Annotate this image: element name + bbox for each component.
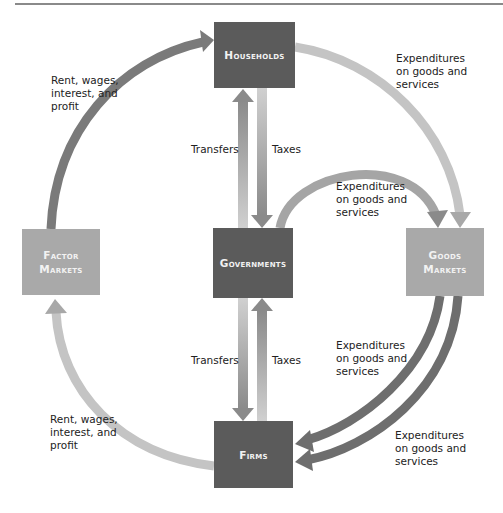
label-goods-to-firms-outer: Expenditures on goods and services: [395, 429, 466, 468]
node-goods-markets: Goods Markets: [406, 228, 484, 296]
node-governments: Governments: [213, 228, 293, 298]
label-upper-taxes: Taxes: [272, 143, 301, 156]
arrow-upper-taxes: [251, 88, 273, 228]
node-goods-markets-label: Goods Markets: [423, 248, 466, 276]
node-firms-label: Firms: [239, 448, 268, 462]
label-goods-to-firms-inner: Expenditures on goods and services: [336, 339, 407, 378]
node-firms: Firms: [214, 421, 293, 488]
arrow-upper-transfers: [232, 89, 254, 228]
arrow-lower-taxes: [251, 298, 273, 421]
node-factor-markets: Factor Markets: [22, 229, 100, 295]
node-households: Households: [214, 22, 295, 88]
label-gov-to-goods: Expenditures on goods and services: [336, 180, 407, 219]
label-lower-taxes: Taxes: [272, 354, 301, 367]
label-households-to-goods: Expenditures on goods and services: [396, 52, 467, 91]
node-households-label: Households: [224, 48, 284, 62]
label-firms-to-factor: Rent, wages, interest, and profit: [50, 413, 118, 452]
arrow-factor-to-households: [51, 30, 214, 229]
label-lower-transfers: Transfers: [191, 354, 239, 367]
node-governments-label: Governments: [220, 256, 287, 270]
node-factor-markets-label: Factor Markets: [39, 248, 82, 276]
label-factor-to-households: Rent, wages, interest, and profit: [51, 74, 119, 113]
label-upper-transfers: Transfers: [191, 143, 239, 156]
